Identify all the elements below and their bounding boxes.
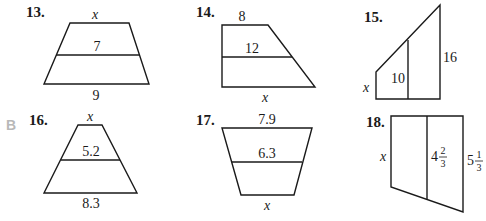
label-16-top: x xyxy=(86,109,94,124)
label-14-mid: 12 xyxy=(245,41,259,56)
label-18-right: 5 1 3 xyxy=(467,149,483,173)
label-18-left: x xyxy=(379,149,387,164)
label-15-left: x xyxy=(362,80,370,95)
figure-15-trapezoid xyxy=(376,5,440,99)
svg-text:4: 4 xyxy=(431,149,438,164)
label-15-mid: 10 xyxy=(391,71,405,86)
label-15-right: 16 xyxy=(443,50,457,65)
figure-18-trapezoid xyxy=(391,116,463,212)
label-16-bottom: 8.3 xyxy=(82,196,100,211)
figure-14-trapezoid xyxy=(222,25,315,87)
svg-text:3: 3 xyxy=(441,158,446,169)
exercise-page: B 13. 14. 15. 16. 17. 18. xyxy=(0,0,486,221)
label-13-bottom: 9 xyxy=(93,88,100,103)
label-14-top: 8 xyxy=(239,9,246,24)
label-17-bottom: x xyxy=(263,198,271,213)
figure-17-trapezoid xyxy=(222,128,312,195)
svg-text:3: 3 xyxy=(477,162,482,173)
figure-16-trapezoid xyxy=(44,125,137,193)
label-17-top: 7.9 xyxy=(258,112,276,127)
svg-text:2: 2 xyxy=(441,145,446,156)
label-13-top: x xyxy=(91,7,99,22)
svg-text:1: 1 xyxy=(477,149,482,160)
label-17-mid: 6.3 xyxy=(258,146,276,161)
figures: x 7 9 8 12 x x 10 16 x 5.2 8.3 7.9 6.3 x… xyxy=(0,0,486,221)
svg-text:5: 5 xyxy=(467,153,474,168)
label-14-bottom: x xyxy=(261,90,269,105)
label-16-mid: 5.2 xyxy=(82,144,100,159)
label-13-mid: 7 xyxy=(94,39,101,54)
label-18-mid: 4 2 3 xyxy=(431,145,447,169)
